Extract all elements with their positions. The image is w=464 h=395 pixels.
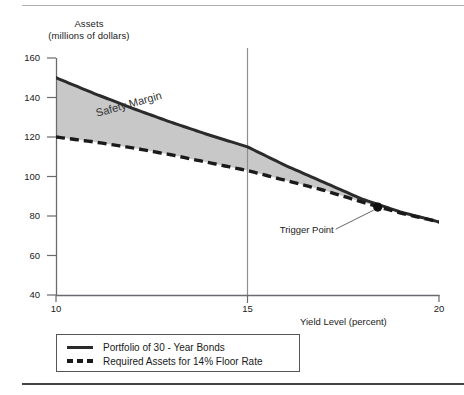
legend-item-label: Portfolio of 30 - Year Bonds xyxy=(103,342,225,353)
y-axis-ticks xyxy=(47,58,56,295)
trigger-point-marker xyxy=(373,203,382,212)
solid-line-swatch-icon xyxy=(67,342,93,352)
x-tick-label: 15 xyxy=(233,303,263,314)
x-tick-label: 10 xyxy=(41,303,71,314)
y-tick-label: 60 xyxy=(14,250,40,261)
legend-item-label: Required Assets for 14% Floor Rate xyxy=(103,356,263,367)
trigger-point-leader-line xyxy=(336,210,374,229)
y-tick-label: 120 xyxy=(14,131,40,142)
x-tick-label: 20 xyxy=(424,303,454,314)
y-tick-label: 40 xyxy=(14,289,40,300)
dashed-line-swatch-icon xyxy=(67,356,93,366)
chart-figure: Assets (millions of dollars) 16014012010… xyxy=(0,0,464,395)
y-tick-label: 160 xyxy=(14,52,40,63)
y-axis-group xyxy=(47,58,57,296)
legend-item-required-assets: Required Assets for 14% Floor Rate xyxy=(67,354,263,368)
y-tick-label: 140 xyxy=(14,92,40,103)
x-axis-group xyxy=(56,295,440,303)
y-tick-label: 80 xyxy=(14,210,40,221)
y-tick-label: 100 xyxy=(14,171,40,182)
trigger-point-label: Trigger Point xyxy=(280,224,334,235)
x-axis-title: Yield Level (percent) xyxy=(300,316,387,327)
legend-item-portfolio: Portfolio of 30 - Year Bonds xyxy=(67,340,225,354)
chart-legend: Portfolio of 30 - Year Bonds Required As… xyxy=(56,334,300,372)
x-axis-ticks xyxy=(56,295,439,303)
